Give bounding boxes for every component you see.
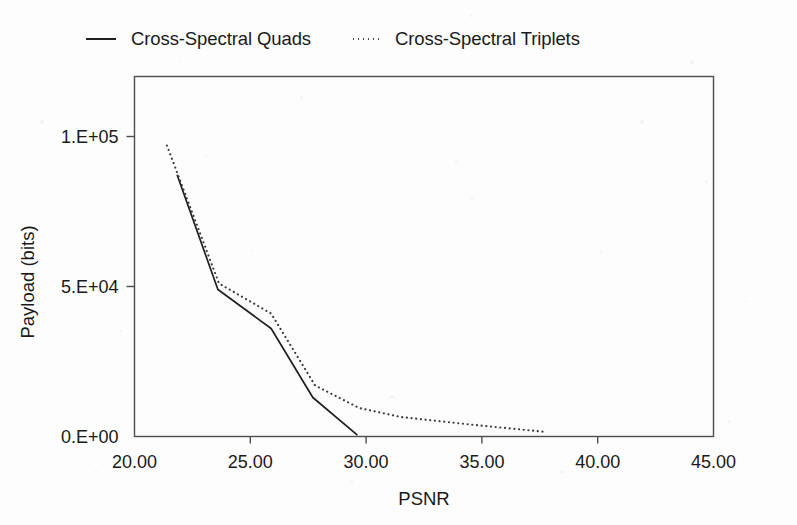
x-axis-title: PSNR: [398, 488, 449, 509]
y-tick-label: 1.E+05: [61, 127, 119, 147]
y-tick-label: 0.E+00: [61, 427, 119, 447]
y-tick-label: 5.E+04: [61, 277, 119, 297]
plot-frame: [135, 77, 714, 437]
y-axis-ticks: [127, 137, 135, 287]
series-line-cross-spectral-triplets: [167, 146, 547, 433]
x-tick-label: 35.00: [459, 452, 504, 472]
plot-area: 20.0025.0030.0035.0040.0045.00 0.E+005.E…: [0, 0, 797, 525]
x-axis-ticks: [250, 437, 597, 444]
x-tick-label: 40.00: [575, 452, 620, 472]
x-axis-tick-labels: 20.0025.0030.0035.0040.0045.00: [112, 452, 736, 472]
data-series-layer: [167, 146, 547, 435]
y-axis-tick-labels: 0.E+005.E+041.E+05: [61, 127, 119, 447]
x-tick-label: 20.00: [112, 452, 157, 472]
x-tick-label: 45.00: [691, 452, 736, 472]
x-tick-label: 30.00: [344, 452, 389, 472]
y-axis-title: Payload (bits): [17, 225, 38, 338]
x-tick-label: 25.00: [228, 452, 273, 472]
chart-figure: Cross-Spectral Quads Cross-Spectral Trip…: [0, 0, 797, 525]
series-line-cross-spectral-quads: [177, 176, 356, 435]
